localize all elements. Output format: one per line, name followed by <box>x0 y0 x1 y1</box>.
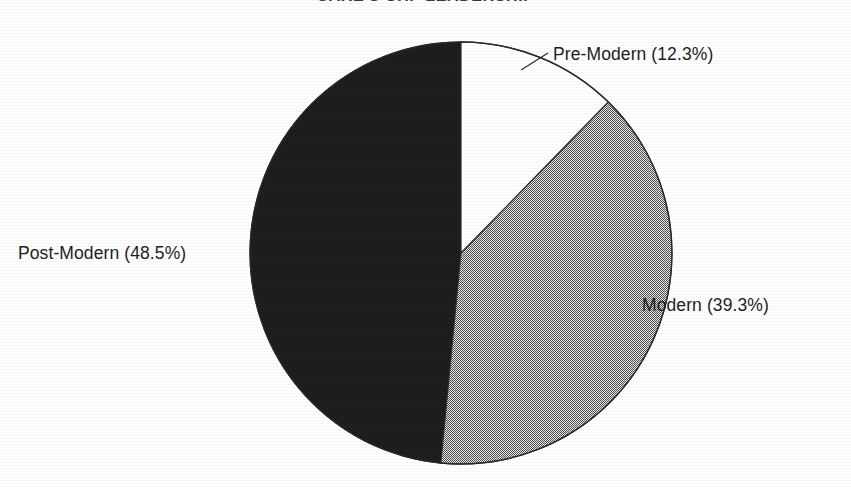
chart-page: CARE'S CHP LEADERSHIP <box>0 0 851 487</box>
slice-label-post-modern: Post-Modern (48.5%) <box>18 243 186 264</box>
slice-label-modern: Modern (39.3%) <box>642 295 769 316</box>
pie-slice-post-modern[interactable] <box>250 42 461 463</box>
slice-label-pre-modern: Pre-Modern (12.3%) <box>553 44 713 65</box>
